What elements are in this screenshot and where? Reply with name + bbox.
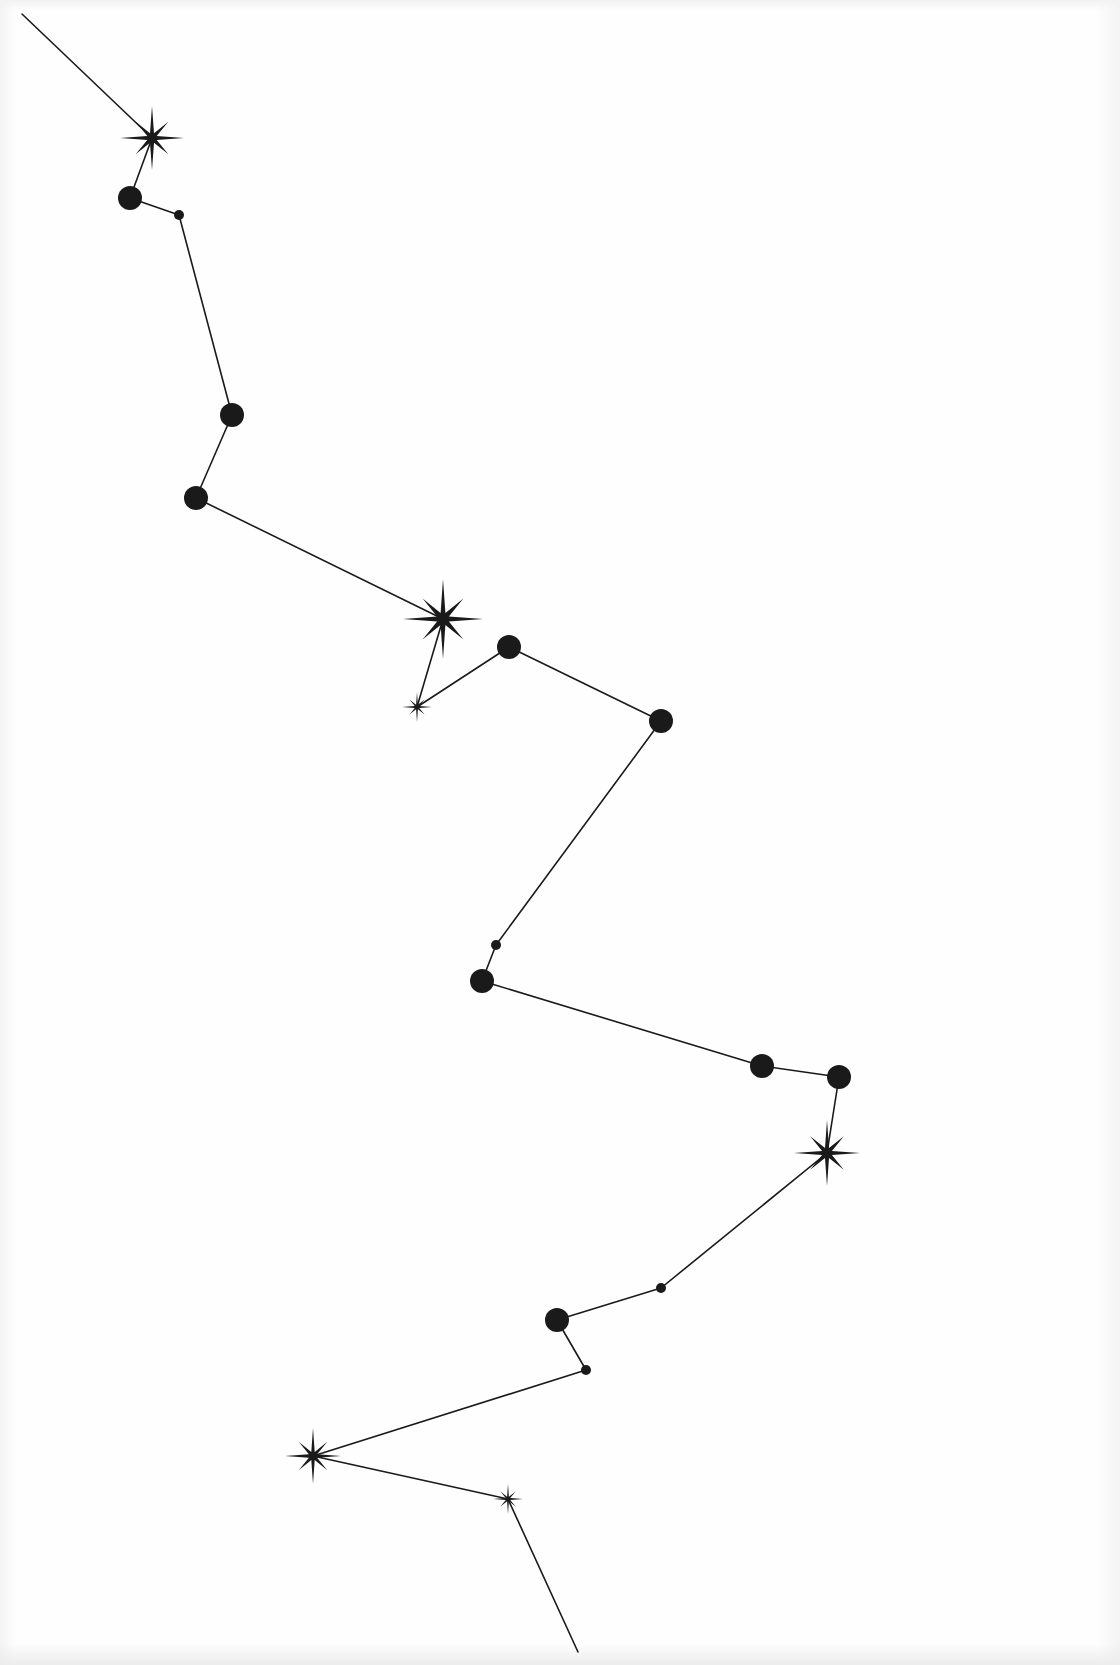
large-dot-icon	[545, 1308, 569, 1332]
large-dot-icon	[649, 709, 673, 733]
constellation-nodes	[118, 106, 860, 1514]
large-dot-icon	[184, 486, 208, 510]
star-icon	[285, 1428, 341, 1484]
large-dot-icon	[827, 1065, 851, 1089]
star-icon	[402, 692, 432, 722]
small-dot-icon	[174, 210, 184, 220]
star-icon	[794, 1120, 860, 1186]
star-icon	[493, 1484, 523, 1514]
constellation-canvas	[0, 0, 1120, 1665]
large-dot-icon	[470, 969, 494, 993]
small-dot-icon	[581, 1365, 591, 1375]
large-dot-icon	[750, 1054, 774, 1078]
constellation-drawing	[0, 0, 1120, 1665]
constellation-line	[22, 14, 839, 1652]
large-dot-icon	[220, 403, 244, 427]
small-dot-icon	[656, 1283, 666, 1293]
small-dot-icon	[491, 940, 501, 950]
large-dot-icon	[118, 186, 142, 210]
star-icon	[403, 579, 483, 659]
large-dot-icon	[497, 635, 521, 659]
